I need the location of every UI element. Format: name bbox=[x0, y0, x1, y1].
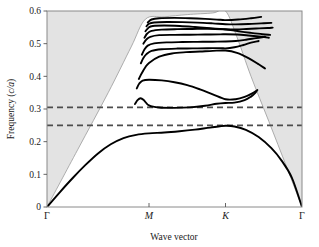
x-tick-label: M bbox=[144, 210, 154, 221]
y-tick-label: 0.5 bbox=[29, 39, 41, 49]
y-tick-label: 0.6 bbox=[29, 6, 41, 16]
x-tick-label: Γ bbox=[299, 210, 305, 221]
band-structure-plot: 00.10.20.30.40.50.6 ΓMKΓ Frequency (c/a)… bbox=[0, 0, 319, 247]
x-tick-label: Γ bbox=[44, 210, 50, 221]
x-tick-label: K bbox=[221, 210, 230, 221]
x-axis-title: Wave vector bbox=[150, 232, 198, 242]
y-axis-title: Frequency (c/a) bbox=[6, 79, 17, 139]
y-axis-ticks: 00.10.20.30.40.50.6 bbox=[29, 6, 47, 212]
y-tick-label: 0.3 bbox=[29, 104, 41, 114]
y-tick-label: 0.4 bbox=[29, 72, 41, 82]
y-tick-label: 0.2 bbox=[29, 137, 41, 147]
band-structure-figure: 00.10.20.30.40.50.6 ΓMKΓ Frequency (c/a)… bbox=[0, 0, 319, 247]
y-tick-label: 0 bbox=[36, 202, 41, 212]
y-tick-label: 0.1 bbox=[29, 170, 41, 180]
